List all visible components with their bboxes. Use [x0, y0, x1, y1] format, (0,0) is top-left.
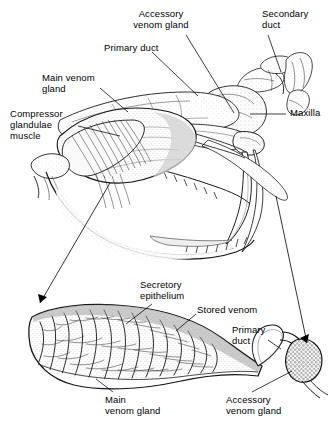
label-primary-duct-top: Primary duct: [104, 42, 184, 53]
label-compressor-glandulae-muscle: Compressor glandulae muscle: [10, 108, 86, 141]
label-accessory-venom-gland-lower: Accessory venom gland: [226, 394, 316, 416]
lower-jaw: [46, 172, 254, 259]
leader-primary-duct-top: [152, 52, 198, 96]
label-secretory-epithelium: Secretory epithelium: [140, 279, 212, 301]
label-secondary-duct: Secondary duct: [262, 8, 332, 30]
accessory-venom-gland-lower-shape: [286, 339, 328, 398]
venom-apparatus-figure: Accessory venom gland Secondary duct Pri…: [0, 0, 335, 440]
label-maxilla: Maxilla: [290, 107, 335, 118]
label-stored-venom: Stored venom: [197, 304, 285, 315]
anatomical-illustration: [0, 0, 335, 440]
label-primary-duct-lower: Primary duct: [232, 324, 288, 346]
arrow-accessory-to-enlargement: [276, 196, 309, 343]
venom-gland-enlarged-section: [29, 304, 328, 398]
label-main-venom-gland-lower: Main venom gland: [105, 394, 191, 416]
maxilla-bone: [233, 131, 264, 155]
label-main-venom-gland-top: Main venom gland: [42, 72, 118, 94]
label-accessory-venom-gland-top: Accessory venom gland: [118, 8, 204, 30]
